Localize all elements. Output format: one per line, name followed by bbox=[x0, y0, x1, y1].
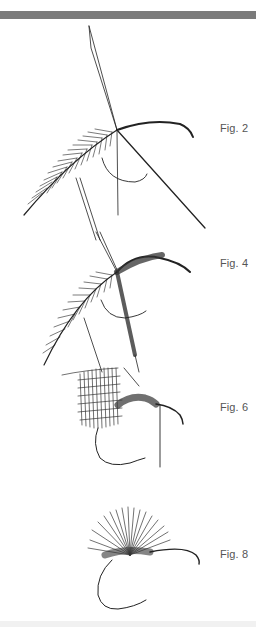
fly-tying-illustration bbox=[0, 0, 256, 627]
fig-label-4: Fig. 4 bbox=[220, 257, 248, 269]
fig-label-2: Fig. 2 bbox=[220, 122, 248, 134]
fig8-drawing bbox=[88, 507, 199, 609]
bottom-band bbox=[0, 621, 256, 627]
fig6-drawing bbox=[62, 368, 183, 467]
fig-label-8: Fig. 8 bbox=[220, 548, 248, 560]
fig4-drawing bbox=[43, 232, 190, 372]
fig2-drawing bbox=[24, 26, 205, 240]
fig-label-6: Fig. 6 bbox=[220, 401, 248, 413]
